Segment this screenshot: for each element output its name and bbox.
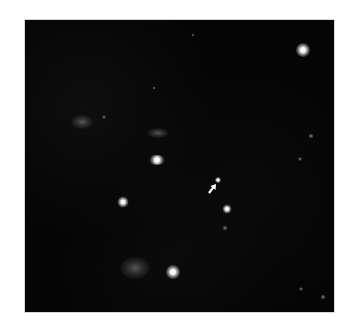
arrow-marker-icon: [25, 20, 334, 312]
star-field-image: [25, 20, 334, 312]
